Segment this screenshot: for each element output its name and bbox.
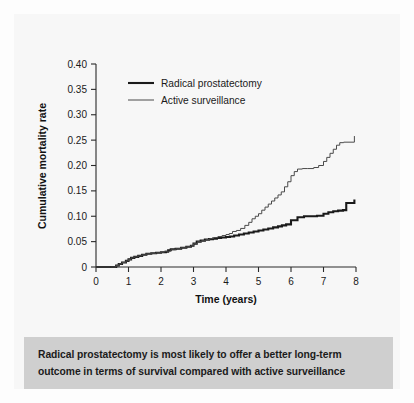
cumulative-mortality-chart: 00.050.100.150.200.250.300.350.40 012345… [0,0,414,330]
y-tick-label: 0 [81,262,87,273]
series-line-active-surveillance [96,136,354,267]
chart-series-group [96,136,354,267]
caption-line-1: Radical prostatectomy is most likely to … [38,346,379,363]
x-tick-label: 6 [288,276,294,287]
caption-band: Radical prostatectomy is most likely to … [24,337,393,389]
y-axis-label: Cumulative mortality rate [36,103,48,229]
x-axis-label: Time (years) [195,293,257,305]
x-tick-label: 1 [126,276,132,287]
x-tick-label: 4 [223,276,229,287]
y-tick-label: 0.15 [68,185,88,196]
x-tick-label: 0 [93,276,99,287]
caption-line-2: outcome in terms of survival compared wi… [38,363,379,380]
y-tick-label: 0.25 [68,135,88,146]
figure-container: 00.050.100.150.200.250.300.350.40 012345… [0,0,414,403]
x-tick-label: 5 [256,276,262,287]
x-axis-ticks: 012345678 [93,267,359,287]
y-tick-label: 0.10 [68,211,88,222]
y-tick-label: 0.30 [68,109,88,120]
y-axis-ticks: 00.050.100.150.200.250.300.350.40 [68,59,96,273]
y-tick-label: 0.20 [68,160,88,171]
legend-label-active-surveillance: Active surveillance [161,95,246,106]
chart-legend: Radical prostatectomyActive surveillance [128,78,263,106]
y-tick-label: 0.05 [68,236,88,247]
legend-label-radical-prostatectomy: Radical prostatectomy [161,78,263,89]
x-tick-label: 2 [158,276,164,287]
chart-plot-wrapper: 00.050.100.150.200.250.300.350.40 012345… [0,0,414,330]
x-tick-label: 8 [353,276,359,287]
y-tick-label: 0.40 [68,59,88,70]
y-tick-label: 0.35 [68,84,88,95]
x-tick-label: 7 [321,276,327,287]
x-tick-label: 3 [191,276,197,287]
